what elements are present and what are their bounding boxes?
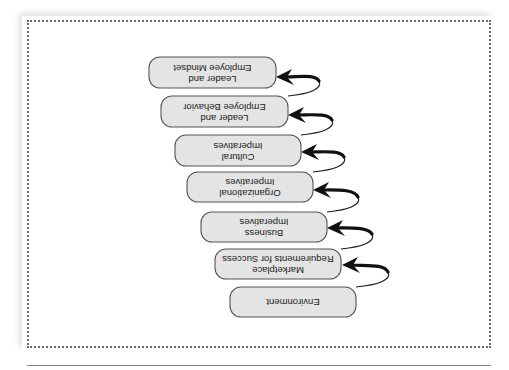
step-label-line2: Employee Mindset bbox=[173, 63, 252, 74]
step-box-cultural: Cultural Imperatives bbox=[175, 135, 301, 166]
step-box-leader-behavior: Leader and Employee Behavior bbox=[161, 96, 288, 127]
arrow-2-to-3 bbox=[327, 220, 373, 249]
step-label-line2: Requirements for Success bbox=[222, 254, 334, 265]
step-box-environment: Environment bbox=[230, 287, 356, 317]
step-label-line2: Employee Behavior bbox=[183, 102, 265, 113]
step-label-line1: Business bbox=[244, 228, 283, 239]
step-box-business: Business Imperatives bbox=[201, 212, 327, 242]
step-label-line2: Imperatives bbox=[213, 141, 262, 152]
arrow-6-to-7 bbox=[276, 69, 320, 96]
arrow-3-to-4 bbox=[313, 182, 359, 212]
step-label-line1: Cultural bbox=[222, 152, 255, 163]
arrow-5-to-6 bbox=[288, 107, 333, 135]
staircase-diagram: Environment Marketplace Requirements for… bbox=[0, 0, 509, 370]
step-label-line2: Imperatives bbox=[225, 177, 274, 188]
step-label-line1: Leader and bbox=[188, 74, 236, 85]
step-label-line2: Imperatives bbox=[239, 217, 288, 228]
step-box-organizational: Organizational Imperatives bbox=[187, 172, 313, 202]
step-box-leader-mindset: Leader and Employee Mindset bbox=[149, 57, 276, 88]
arrow-4-to-5 bbox=[301, 144, 345, 172]
step-label-line1: Organizational bbox=[219, 188, 280, 199]
step-label: Environment bbox=[266, 297, 320, 308]
step-box-marketplace: Marketplace Requirements for Success bbox=[215, 249, 341, 279]
arrow-1-to-2 bbox=[342, 257, 389, 287]
step-label-line1: Leader and bbox=[200, 113, 248, 124]
step-label-line1: Marketplace bbox=[252, 265, 304, 276]
